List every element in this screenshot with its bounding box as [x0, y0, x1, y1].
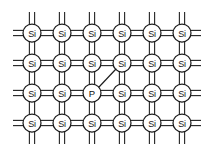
atom-silicon: Si — [53, 114, 71, 132]
atom-label: Si — [178, 89, 186, 99]
atom-silicon: Si — [23, 24, 41, 42]
free-electron-pointer-icon — [99, 69, 116, 87]
atom-label: Si — [88, 29, 96, 39]
atom-label: Si — [28, 89, 36, 99]
atom-label: Si — [118, 29, 126, 39]
atom-silicon: Si — [83, 24, 101, 42]
atom-silicon: Si — [83, 114, 101, 132]
atom-silicon: Si — [173, 114, 191, 132]
dopant-atom-phosphorus: P — [83, 84, 101, 102]
atom-label: Si — [118, 59, 126, 69]
atom-label: Si — [88, 59, 96, 69]
atom-label: Si — [118, 119, 126, 129]
atom-silicon: Si — [23, 84, 41, 102]
atom-silicon: Si — [143, 114, 161, 132]
atom-label: Si — [28, 59, 36, 69]
silicon-lattice-figure: SiSiSiSiSiSiSiSiSiSiSiSiSiSiPSiSiSiSiSiS… — [0, 0, 211, 151]
pointer-layer — [99, 69, 116, 87]
atom-label: Si — [28, 29, 36, 39]
atom-label: Si — [118, 89, 126, 99]
atom-silicon: Si — [113, 84, 131, 102]
atom-label: Si — [148, 59, 156, 69]
atom-label: Si — [28, 119, 36, 129]
atom-label: Si — [148, 89, 156, 99]
atom-silicon: Si — [23, 114, 41, 132]
lattice-svg: SiSiSiSiSiSiSiSiSiSiSiSiSiSiPSiSiSiSiSiS… — [0, 0, 211, 151]
atom-silicon: Si — [83, 54, 101, 72]
atom-label: Si — [88, 119, 96, 129]
atom-label: P — [89, 88, 95, 99]
atom-silicon: Si — [173, 84, 191, 102]
atom-silicon: Si — [113, 24, 131, 42]
atom-label: Si — [178, 59, 186, 69]
atom-silicon: Si — [23, 54, 41, 72]
atom-silicon: Si — [173, 54, 191, 72]
atom-silicon: Si — [143, 54, 161, 72]
atom-silicon: Si — [173, 24, 191, 42]
atom-label: Si — [58, 59, 66, 69]
atom-label: Si — [58, 29, 66, 39]
atom-silicon: Si — [143, 84, 161, 102]
atom-label: Si — [58, 119, 66, 129]
atom-label: Si — [178, 119, 186, 129]
atom-silicon: Si — [53, 24, 71, 42]
atom-silicon: Si — [53, 54, 71, 72]
atom-silicon: Si — [143, 24, 161, 42]
atom-label: Si — [58, 89, 66, 99]
atom-silicon: Si — [53, 84, 71, 102]
atom-label: Si — [148, 29, 156, 39]
atom-label: Si — [178, 29, 186, 39]
atom-label: Si — [148, 119, 156, 129]
atom-silicon: Si — [113, 114, 131, 132]
